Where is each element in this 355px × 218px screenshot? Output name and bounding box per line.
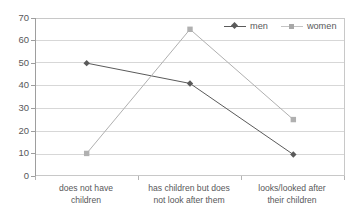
- data-point-women-1[interactable]: [187, 27, 192, 32]
- data-point-men-1[interactable]: [187, 80, 193, 86]
- legend: men women: [224, 21, 337, 31]
- line-chart: 70 60 50 40 30 20 10 0 does not have chi…: [0, 0, 355, 218]
- series-line-women: [87, 29, 294, 153]
- series-line-men: [87, 63, 294, 154]
- legend-entry-women[interactable]: women: [281, 21, 337, 31]
- data-point-men-2[interactable]: [290, 151, 296, 157]
- legend-entry-men[interactable]: men: [224, 21, 268, 31]
- data-point-women-0[interactable]: [84, 151, 89, 156]
- data-point-women-2[interactable]: [291, 117, 296, 122]
- square-marker-icon: [281, 22, 303, 31]
- diamond-marker-icon: [224, 22, 246, 31]
- legend-label: women: [307, 21, 337, 31]
- legend-label: men: [250, 21, 268, 31]
- data-series-layer: [0, 0, 355, 218]
- data-point-men-0[interactable]: [83, 60, 89, 66]
